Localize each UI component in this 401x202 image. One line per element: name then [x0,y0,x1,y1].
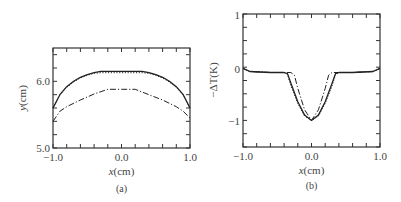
ylabel-b: −ΔT(K) [207,62,220,98]
caption-a: (a) [116,183,127,195]
panel-b: −1.0 0.0 1.0 1 0 −1 x(cm) −ΔT(K) (b) [207,9,387,192]
curve-dotted [243,68,380,120]
curve-dash-dot [243,68,380,120]
curves-a [53,71,190,121]
xtick-b-mid: 0.0 [305,150,319,162]
ytick-b-1: 1 [235,9,241,21]
ticks-b [243,14,380,147]
ytick-a-6: 6.0 [36,75,50,87]
curve-dotted [53,73,190,108]
curve-solid [243,68,380,120]
plot-frame-b [243,14,380,147]
xtick-a-max: 1.0 [183,151,197,163]
ylabel-a: y(cm) [16,85,29,112]
ytick-a-5: 5.0 [36,142,50,154]
caption-b: (b) [306,180,318,192]
xtick-a-mid: 0.0 [115,151,129,163]
figure: −1.0 0.0 1.0 5.0 6.0 x(cm) y(cm) (a) −1.… [0,0,401,202]
xtick-b-min: −1.0 [233,150,253,162]
curve-dash-dot [53,89,190,121]
ytick-b-neg1: −1 [228,115,240,127]
xtick-b-max: 1.0 [373,150,387,162]
curves-b [243,68,380,120]
xlabel-a: x(cm) [108,165,135,178]
ytick-b-0: 0 [235,63,241,75]
ticks-a [53,48,190,148]
plot-frame-a [53,48,190,148]
xlabel-b: x(cm) [298,164,325,177]
panel-a: −1.0 0.0 1.0 5.0 6.0 x(cm) y(cm) (a) [16,48,197,195]
